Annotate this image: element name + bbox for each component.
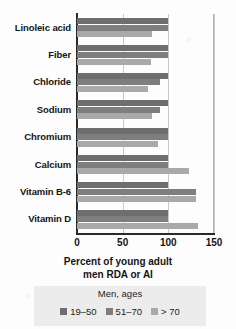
bar	[77, 210, 168, 216]
bar-chart: Linoleic acidFiberChlorideSodiumChromium…	[0, 0, 236, 255]
bar	[77, 168, 189, 174]
bar-group	[77, 182, 214, 201]
legend-label: 51–70	[116, 306, 142, 317]
legend-title: Men, ages	[34, 288, 206, 299]
legend-swatch-icon	[60, 308, 67, 315]
plot-area	[77, 14, 214, 233]
bar	[77, 79, 160, 85]
bar	[77, 86, 148, 92]
bar-group	[77, 155, 214, 174]
legend: Men, ages 19–5051–70> 70	[34, 286, 206, 326]
legend-swatch-icon	[151, 308, 158, 315]
bar	[77, 52, 168, 58]
bar	[77, 134, 168, 140]
bar	[77, 223, 198, 229]
legend-swatch-icon	[106, 308, 113, 315]
category-label: Vitamin B-6	[20, 186, 71, 197]
legend-item: 51–70	[106, 306, 142, 317]
legend-item: > 70	[151, 306, 180, 317]
tick-label-50: 50	[117, 237, 128, 248]
category-label: Linoleic acid	[15, 22, 71, 33]
bar	[77, 182, 168, 188]
bar-group	[77, 45, 214, 64]
legend-items: 19–5051–70> 70	[34, 306, 206, 317]
bar	[77, 113, 152, 119]
category-label: Fiber	[48, 49, 71, 60]
category-label: Sodium	[37, 104, 71, 115]
bar	[77, 162, 168, 168]
value-axis-title-line1: Percent of young adult	[0, 256, 236, 269]
bar	[77, 155, 168, 161]
tick-label-0: 0	[74, 237, 80, 248]
tick-label-150: 150	[206, 237, 223, 248]
bar	[77, 59, 151, 65]
tick-label-100: 100	[160, 237, 177, 248]
category-axis-line	[76, 233, 215, 235]
bar	[77, 100, 168, 106]
bar	[77, 216, 168, 222]
bar-group	[77, 73, 214, 92]
category-label: Chromium	[24, 131, 71, 142]
bar	[77, 31, 152, 37]
bar	[77, 141, 158, 147]
bar-group	[77, 18, 214, 37]
legend-item: 19–50	[60, 306, 96, 317]
bar	[77, 189, 196, 195]
category-label: Chloride	[33, 76, 71, 87]
bar	[77, 45, 168, 51]
bar	[77, 107, 160, 113]
category-label: Calcium	[35, 159, 71, 170]
bar-group	[77, 100, 214, 119]
legend-label: > 70	[161, 306, 180, 317]
value-axis-title-line2: men RDA or AI	[0, 269, 236, 282]
bar	[77, 196, 196, 202]
category-axis-labels: Linoleic acidFiberChlorideSodiumChromium…	[0, 14, 73, 233]
category-label: Vitamin D	[28, 213, 71, 224]
bar	[77, 18, 168, 24]
bar	[77, 128, 168, 134]
gridline-150	[214, 14, 215, 233]
value-axis-title: Percent of young adult men RDA or AI	[0, 256, 236, 281]
bar-group	[77, 210, 214, 229]
bar	[77, 25, 168, 31]
bar-group	[77, 128, 214, 147]
legend-label: 19–50	[70, 306, 96, 317]
bar	[77, 73, 168, 79]
